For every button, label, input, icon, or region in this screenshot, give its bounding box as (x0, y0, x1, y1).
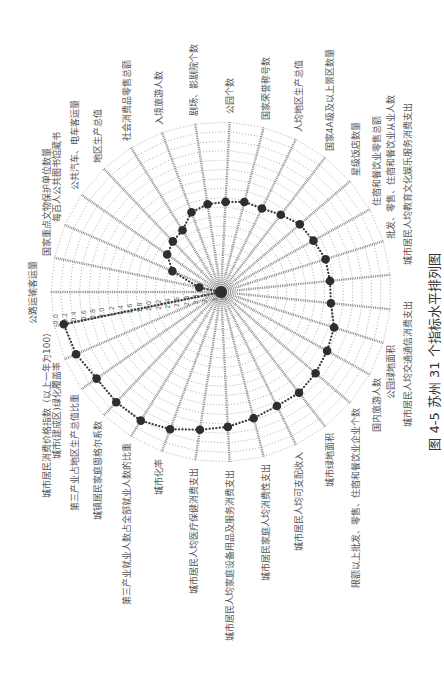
data-point (221, 198, 230, 207)
category-label: 剧场、影剧院个数 (188, 44, 199, 116)
radial-axis-line (221, 158, 325, 292)
category-label: 人均地区生产总值 (293, 60, 304, 132)
radial-axis-line (65, 225, 221, 292)
data-point (163, 250, 172, 259)
radial-axis-line (221, 181, 350, 292)
category-label: 城市居民人均教育文化娱乐服务消费支出 (402, 103, 413, 265)
radial-axis-line (104, 169, 221, 292)
data-point (112, 398, 121, 407)
data-point (215, 286, 227, 298)
category-label: 入境旅游人数 (153, 71, 164, 125)
radial-axis-line (221, 292, 230, 462)
category-label: 国家重点文物保护单位数量 (41, 148, 52, 256)
category-label: 住宿和餐饮业零售总额 (371, 116, 382, 206)
data-point (240, 198, 249, 207)
radial-tick-label: 0.4 (70, 311, 78, 321)
radial-axis-line (221, 292, 264, 457)
category-label: 批发、零售、住宿和餐饮业从业人数 (385, 95, 396, 239)
radial-axis-line (221, 292, 350, 403)
category-label: 星级饭店数量 (350, 122, 361, 176)
category-label: 城市居民人均可支配收入 (293, 452, 304, 551)
data-point (137, 416, 146, 425)
category-label: 城市居民人均交通通信消费支出 (402, 301, 413, 427)
radial-axis-line (195, 292, 221, 460)
data-point (311, 369, 320, 378)
category-label: 公共汽车、电车客运量 (69, 100, 80, 190)
radial-tick-label: 0.6 (80, 310, 88, 320)
data-point (168, 267, 177, 276)
category-label: 公园绿地面积 (385, 345, 396, 399)
radar-chart: 0.00.20.40.60.81.01.21.41.61.82.02.22.42… (0, 0, 444, 691)
category-label: 国家4A级及以上景区数量 (324, 49, 335, 151)
category-label: 城市居民人均家庭设备用品及服务消费支出 (224, 470, 235, 641)
category-label: 城市化率 (153, 459, 164, 495)
data-point (178, 226, 187, 235)
data-point (321, 255, 330, 264)
data-point (92, 374, 101, 383)
data-point (277, 210, 286, 219)
radial-tick-label: 2.8 (183, 296, 191, 306)
category-label: 城市居民家庭人均消费性支出 (260, 464, 271, 581)
category-label: 城市绿地面积 (324, 433, 335, 487)
radial-axis-line (221, 292, 296, 445)
data-point (196, 425, 205, 434)
category-label: 地区生产总值 (92, 109, 103, 163)
category-label: 社会消费品零售总额 (121, 60, 132, 141)
category-label: 限额以上批发、零售、住宿和餐饮业企业个数 (350, 408, 361, 588)
data-point (295, 389, 304, 398)
radial-tick-label: 1.8 (136, 302, 144, 312)
data-point (203, 200, 212, 209)
data-point (296, 220, 305, 229)
data-point (195, 283, 204, 292)
data-point (273, 402, 282, 411)
radial-axis-line (221, 127, 264, 292)
figure-caption: 图 4-5 苏州 31 个指标水平排列图 (427, 253, 442, 450)
data-point (258, 204, 267, 213)
category-label: 第三产业占地区生产总值比重 (69, 394, 80, 511)
radial-tick-label: 0.0 (52, 314, 60, 324)
data-point (323, 347, 332, 356)
category-label: 城市居民人均医疗保健消费支出 (188, 468, 199, 594)
data-point (72, 350, 81, 359)
data-point (187, 208, 196, 217)
radial-tick-label: 1.6 (126, 304, 134, 314)
category-label: 国内旅游人数 (371, 378, 382, 432)
data-point (330, 323, 339, 332)
category-label: 公路运输客运量 (27, 261, 38, 324)
category-label-layer: 公路运输客运量国家重点文物保护单位数量每百人公共图书馆藏书公共汽车、电车客运量地… (27, 44, 413, 641)
radial-axis-line (221, 122, 230, 292)
data-point (249, 414, 258, 423)
radial-axis-line (131, 292, 221, 436)
category-label: 城市居民消费价格指数（以上一年为100） (41, 328, 52, 498)
radial-axis-line (81, 195, 221, 292)
data-point (309, 236, 318, 245)
category-label: 城市(建成区)绿化覆盖率 (51, 362, 62, 459)
data-point (166, 425, 175, 434)
data-point (59, 320, 68, 329)
category-label: 国家荣誉称号数 (260, 57, 271, 120)
radial-axis-line (221, 210, 370, 293)
category-label: 城镇居民家庭恩格尔系数 (92, 421, 103, 520)
category-label: 第三产业就业人数占全部就业人数的比重 (121, 443, 132, 605)
data-point (169, 237, 178, 246)
data-point (326, 277, 335, 286)
data-point (327, 299, 336, 308)
category-label: 每百人公共图书馆藏书 (51, 132, 62, 222)
data-point (224, 423, 233, 432)
category-label: 公园个数 (224, 78, 235, 114)
